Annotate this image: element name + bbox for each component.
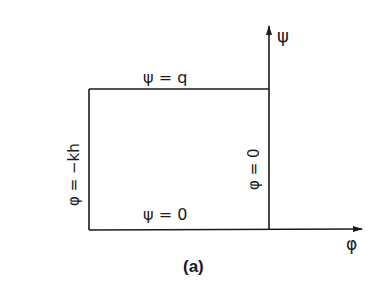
- phi-axis: [89, 229, 362, 230]
- diagram-canvas: ψ φ ψ = q ψ = 0 φ = −kh φ = 0 (a): [0, 0, 387, 286]
- flow-domain-diagram: ψ φ ψ = q ψ = 0 φ = −kh φ = 0 (a): [0, 0, 387, 286]
- phi-axis-label: φ: [346, 234, 357, 254]
- right-boundary-label: φ = 0: [245, 148, 263, 190]
- left-boundary-label: φ = −kh: [65, 143, 83, 206]
- bottom-boundary-label: ψ = 0: [143, 205, 187, 224]
- figure-caption: (a): [183, 257, 204, 276]
- top-boundary-label: ψ = q: [143, 68, 187, 87]
- psi-axis-label: ψ: [277, 25, 289, 46]
